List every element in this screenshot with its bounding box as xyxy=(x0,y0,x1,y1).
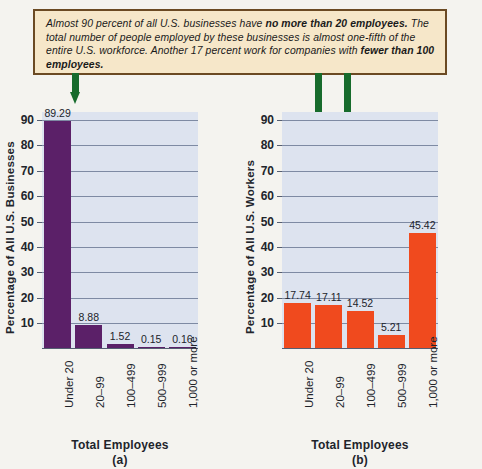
x-axis-title-text: Total Employees xyxy=(282,438,438,453)
y-tick-mark xyxy=(37,247,42,248)
x-axis-title: Total Employees(b) xyxy=(282,438,438,468)
x-category-label: 100–499 xyxy=(365,363,377,408)
x-category-label: 100–499 xyxy=(125,363,137,408)
callout-box: Almost 90 percent of all U.S. businesses… xyxy=(33,9,447,75)
x-category-label: 500–999 xyxy=(396,363,408,408)
y-tick-mark xyxy=(277,247,282,248)
y-tick-mark xyxy=(37,196,42,197)
y-tick-mark xyxy=(277,145,282,146)
y-tick-mark xyxy=(37,298,42,299)
gridline xyxy=(282,196,438,197)
y-tick-mark xyxy=(37,120,42,121)
bar xyxy=(378,335,405,348)
y-tick-mark xyxy=(277,272,282,273)
bar-value-label: 5.21 xyxy=(369,322,413,333)
chart-workers: 10203040506070809017.74Under 2017.1120–9… xyxy=(248,104,438,469)
panel-caption: (b) xyxy=(282,453,438,468)
arrow-head xyxy=(70,92,80,104)
x-category-label: 20–99 xyxy=(334,376,346,408)
y-tick-mark xyxy=(37,171,42,172)
y-tick-mark xyxy=(37,323,42,324)
y-tick-mark xyxy=(37,272,42,273)
callout-plain: Almost 90 percent of all U.S. businesses… xyxy=(46,18,265,29)
y-tick-mark xyxy=(37,222,42,223)
axis-baseline xyxy=(42,348,198,349)
panel-caption: (a) xyxy=(42,453,198,468)
axis-baseline xyxy=(282,348,438,349)
bar-value-label: 89.29 xyxy=(36,108,80,119)
x-category-label: 1,000 or more xyxy=(187,336,199,408)
y-tick-mark xyxy=(277,196,282,197)
x-category-label: Under 20 xyxy=(63,361,75,408)
x-category-label: 500–999 xyxy=(156,363,168,408)
gridline xyxy=(282,171,438,172)
bar xyxy=(284,303,311,348)
y-tick-label: 90 xyxy=(12,114,34,126)
x-axis-title-text: Total Employees xyxy=(42,438,198,453)
y-tick-mark xyxy=(277,323,282,324)
bar xyxy=(107,344,134,348)
x-category-label: Under 20 xyxy=(303,361,315,408)
callout-text: Almost 90 percent of all U.S. businesses… xyxy=(46,17,436,71)
y-axis-title: Percentage of All U.S. Workers xyxy=(244,160,256,334)
x-axis-title: Total Employees(a) xyxy=(42,438,198,468)
y-tick-mark xyxy=(277,120,282,121)
y-tick-mark xyxy=(37,145,42,146)
gridline xyxy=(282,120,438,121)
gridline xyxy=(282,145,438,146)
bar xyxy=(315,305,342,348)
bar xyxy=(409,233,436,348)
y-tick-mark xyxy=(277,222,282,223)
y-tick-label: 90 xyxy=(252,114,274,126)
x-category-label: 20–99 xyxy=(94,376,106,408)
bar-value-label: 14.52 xyxy=(338,298,382,309)
y-axis-title: Percentage of All U.S. Businesses xyxy=(4,141,16,334)
y-tick-label: 80 xyxy=(252,139,274,151)
bar xyxy=(138,347,165,349)
chart-businesses: 10203040506070809089.29Under 208.8820–99… xyxy=(8,104,198,469)
callout-emphasis: no more than 20 employees. xyxy=(265,18,407,29)
x-category-label: 1,000 or more xyxy=(427,336,439,408)
arrow-to-under-20-businesses xyxy=(70,73,81,104)
bar-value-label: 8.88 xyxy=(67,312,111,323)
arrow-stem xyxy=(72,73,79,92)
bar-value-label: 45.42 xyxy=(400,220,444,231)
y-tick-mark xyxy=(277,171,282,172)
